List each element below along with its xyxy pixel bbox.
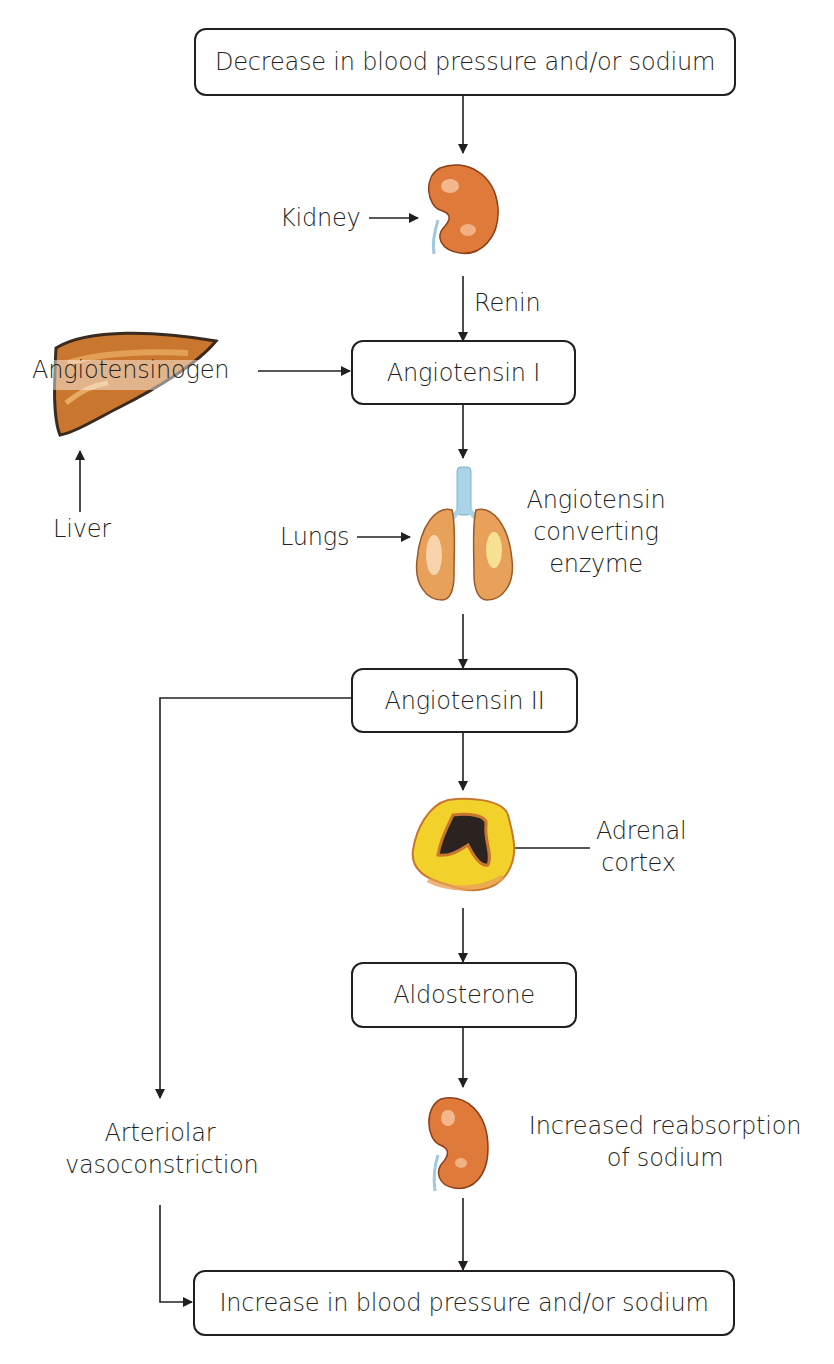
label-lungs: Lungs	[280, 521, 349, 553]
lungs-icon	[412, 465, 517, 605]
label-ace: Angiotensin converting enzyme	[525, 484, 667, 580]
kidney-icon	[416, 1093, 496, 1193]
label-arteriolar-vasoconstriction: Arteriolar vasoconstriction	[65, 1117, 255, 1181]
label-adrenal-line2: cortex	[596, 847, 681, 879]
kidney-icon	[410, 158, 510, 258]
label-ace-line2: converting	[525, 516, 667, 548]
box-angiotensin-2: Angiotensin II	[351, 668, 578, 733]
adrenal-gland-icon	[408, 795, 518, 895]
box-increase-blood-pressure: Increase in blood pressure and/or sodium	[193, 1270, 735, 1336]
box-aldosterone: Aldosterone	[351, 962, 577, 1028]
label-adrenal-line1: Adrenal	[596, 815, 681, 847]
label-angiotensinogen: Angiotensinogen	[32, 354, 229, 386]
label-reabsorption-line2: of sodium	[523, 1142, 807, 1174]
label-liver: Liver	[53, 513, 111, 545]
box-angiotensin-1: Angiotensin I	[351, 340, 576, 405]
label-reabsorption-line1: Increased reabsorption	[523, 1110, 807, 1142]
label-kidney: Kidney	[280, 202, 361, 234]
label-ace-line3: enzyme	[525, 548, 667, 580]
label-arteriolar-line1: Arteriolar	[65, 1117, 255, 1149]
label-ace-line1: Angiotensin	[525, 484, 667, 516]
label-arteriolar-line2: vasoconstriction	[65, 1149, 255, 1181]
box-decrease-blood-pressure: Decrease in blood pressure and/or sodium	[194, 28, 736, 96]
label-adrenal-cortex: Adrenal cortex	[596, 815, 681, 879]
label-renin: Renin	[474, 287, 540, 319]
label-increased-reabsorption: Increased reabsorption of sodium	[523, 1110, 807, 1174]
